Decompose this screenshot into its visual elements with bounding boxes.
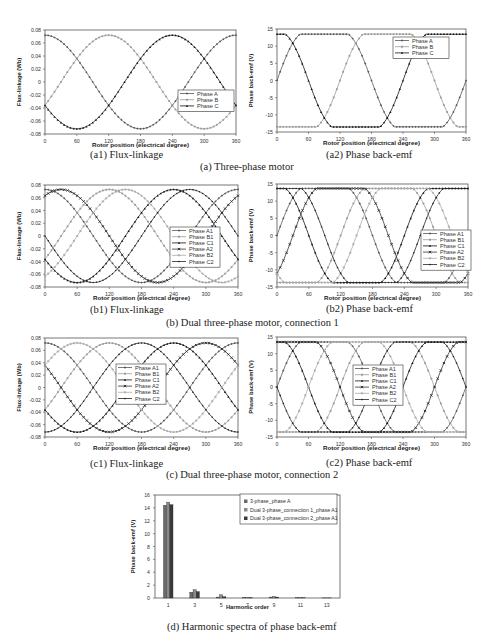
- data-point: [327, 243, 329, 245]
- data-point: [186, 189, 188, 191]
- data-point: [431, 341, 433, 343]
- data-point: [92, 41, 94, 43]
- data-point: [440, 403, 442, 405]
- legend-swatch: [244, 500, 248, 504]
- data-point: [304, 126, 306, 128]
- x-tick-label: 300: [202, 291, 211, 297]
- data-point: [218, 423, 220, 425]
- x-tick-label: 360: [234, 291, 243, 297]
- data-point: [445, 188, 447, 190]
- data-point: [229, 112, 231, 114]
- data-point: [386, 341, 388, 343]
- data-point: [339, 431, 341, 433]
- data-point: [346, 281, 348, 283]
- data-point: [318, 218, 320, 220]
- legend-label: Phase A2: [372, 384, 396, 390]
- data-point: [221, 212, 223, 214]
- data-point: [459, 126, 461, 128]
- legend-label: Phase A: [197, 91, 218, 97]
- data-point: [421, 341, 423, 343]
- data-point: [402, 33, 404, 35]
- y-tick-label: -0.06: [29, 118, 41, 124]
- data-point: [131, 354, 133, 356]
- data-point: [118, 354, 120, 356]
- chart-d-svg: 0246810121416135791113Harmonic orderPhas…: [120, 482, 380, 612]
- data-point: [80, 208, 82, 210]
- data-point: [134, 245, 136, 247]
- data-point: [362, 282, 364, 284]
- data-point: [377, 33, 379, 35]
- data-point: [327, 267, 329, 269]
- data-point: [54, 245, 56, 247]
- legend-label: Phase B2: [372, 390, 396, 396]
- data-point: [202, 405, 204, 407]
- data-point: [440, 341, 442, 343]
- bar: [163, 505, 166, 598]
- data-point: [210, 127, 212, 129]
- data-point: [374, 33, 376, 35]
- data-point: [427, 370, 429, 372]
- data-point: [147, 343, 149, 345]
- legend: 3-phase_phase ADual 3-phase_connection 1…: [240, 494, 338, 524]
- data-point: [320, 431, 322, 433]
- y-tick-label: -10: [266, 417, 274, 423]
- data-point: [144, 342, 146, 344]
- data-point: [368, 188, 370, 190]
- legend-label: Phase A1: [440, 231, 464, 237]
- bar: [190, 592, 193, 598]
- data-point: [44, 431, 46, 433]
- legend-label: Phase A2: [440, 249, 464, 255]
- y-tick-label: 0.04: [31, 208, 41, 214]
- data-point: [70, 270, 72, 272]
- data-point: [231, 266, 233, 268]
- data-point: [144, 230, 146, 232]
- data-point: [115, 357, 117, 359]
- data-point: [150, 344, 152, 346]
- data-point: [449, 422, 451, 424]
- data-point: [128, 254, 130, 256]
- data-point: [208, 281, 210, 283]
- data-point: [465, 126, 467, 128]
- data-point: [340, 235, 342, 237]
- data-point: [133, 50, 135, 52]
- y-axis-label: Phase back-emf (V): [248, 360, 254, 414]
- data-point: [301, 126, 303, 128]
- data-point: [228, 429, 230, 431]
- legend-label: Phase C1: [135, 377, 160, 383]
- data-point: [302, 189, 304, 191]
- data-point: [121, 193, 123, 195]
- data-point: [321, 226, 323, 228]
- bar: [216, 597, 219, 598]
- x-axis-label: Rotor position (electrical degree): [324, 294, 421, 301]
- y-axis-label: Flux-linkage (Wb): [16, 363, 22, 411]
- caption-d: (d) Harmonic spectra of phase back-emf: [167, 621, 336, 632]
- chart-b1-flux-linkage: -0.08-0.06-0.04-0.0200.020.040.060.08060…: [0, 175, 245, 314]
- y-axis-label: Phase back-emf (V): [248, 54, 254, 108]
- y-tick-label: 0.04: [31, 360, 41, 366]
- data-point: [79, 54, 81, 56]
- data-point: [340, 273, 342, 275]
- data-point: [442, 189, 444, 191]
- data-point: [124, 41, 126, 43]
- legend-label: Phase B1: [189, 234, 213, 240]
- legend-label: Phase B: [197, 97, 218, 103]
- data-point: [399, 33, 401, 35]
- data-point: [112, 189, 114, 191]
- data-point: [202, 431, 204, 433]
- legend-label: Phase B2: [135, 389, 159, 395]
- data-point: [63, 382, 65, 384]
- data-point: [383, 341, 385, 343]
- data-point: [383, 33, 385, 35]
- y-tick-label: 0.02: [31, 372, 41, 378]
- legend-label: Phase C1: [440, 243, 465, 249]
- data-point: [386, 33, 388, 35]
- data-point: [80, 360, 82, 362]
- data-point: [372, 188, 374, 190]
- data-point: [437, 395, 439, 397]
- data-point: [358, 345, 360, 347]
- data-point: [330, 260, 332, 262]
- data-point: [208, 198, 210, 200]
- data-point: [388, 282, 390, 284]
- data-point: [211, 417, 213, 419]
- data-point: [163, 245, 165, 247]
